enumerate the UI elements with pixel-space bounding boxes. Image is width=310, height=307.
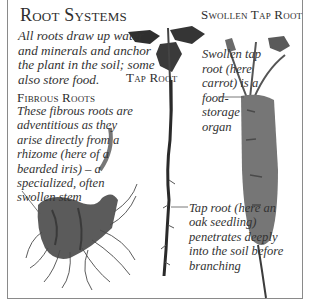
swollen-tap-root-heading: Swollen Tap Root (201, 7, 302, 23)
swollen-tap-root-caption: Swollen tap root (here carrot) is a food… (202, 47, 264, 135)
tap-root-heading: Tap Root (126, 70, 177, 86)
tap-root-caption: Tap root (here an oak seedling) penetrat… (189, 201, 289, 273)
fibrous-roots-caption: These fibrous roots are adventitious as … (17, 104, 137, 205)
page-title: Root Systems (20, 5, 127, 26)
